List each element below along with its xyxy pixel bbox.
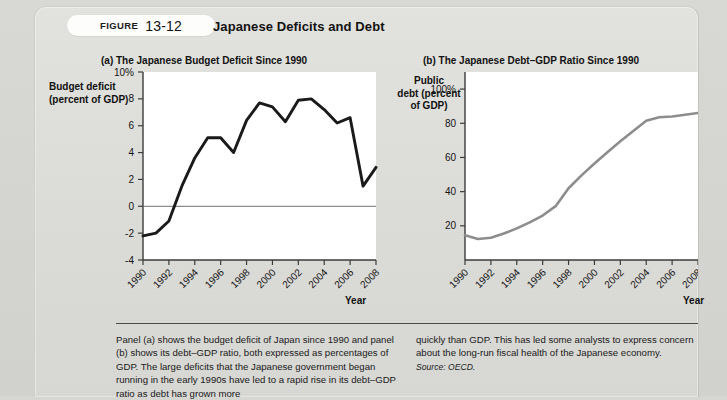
plot-area-panel-b [465, 72, 698, 260]
x-tick-label-panel-b-5: 2000 [576, 266, 600, 290]
x-tick-label-panel-b-9: 2008 [680, 266, 698, 290]
y-tick-label-panel-a-0: -4 [125, 255, 134, 266]
y-tick-label-panel-b-4: 100% [430, 84, 456, 95]
x-tick-label-panel-a-0: 1990 [125, 266, 149, 290]
chart-panel-b: 20406080100%1990199219941996199820002002… [430, 72, 698, 290]
y-tick-label-panel-a-5: 6 [128, 120, 134, 131]
caption-source: Source: OECD. [416, 361, 698, 374]
x-tick-label-panel-a-5: 2000 [254, 266, 278, 290]
caption-divider [116, 323, 698, 324]
x-tick-label-panel-a-7: 2004 [306, 266, 330, 290]
y-tick-label-panel-a-1: -2 [125, 228, 134, 239]
y-tick-label-panel-a-3: 2 [128, 174, 134, 185]
x-tick-label-panel-b-4: 1998 [550, 266, 574, 290]
plot-area-panel-a [143, 72, 376, 260]
x-tick-label-panel-b-3: 1996 [525, 266, 549, 290]
charts-canvas: -4-20246810%1990199219941996199820002002… [35, 7, 698, 327]
caption-right-column: quickly than GDP. This has led some anal… [416, 333, 698, 374]
y-tick-label-panel-a-2: 0 [128, 201, 134, 212]
x-tick-label-panel-a-3: 1996 [203, 266, 227, 290]
x-tick-label-panel-a-1: 1992 [151, 266, 175, 290]
x-tick-label-panel-b-8: 2006 [654, 266, 678, 290]
x-tick-label-panel-a-4: 1998 [228, 266, 252, 290]
x-tick-label-panel-a-9: 2008 [358, 266, 382, 290]
x-tick-label-panel-b-0: 1990 [447, 266, 471, 290]
caption-right-text: quickly than GDP. This has led some anal… [416, 334, 693, 358]
x-tick-label-panel-b-1: 1992 [473, 266, 497, 290]
y-tick-label-panel-a-4: 4 [128, 147, 134, 158]
figure-card: FIGURE 13-12 Japanese Deficits and Debt … [34, 6, 699, 397]
chart-panel-a: -4-20246810%1990199219941996199820002002… [114, 67, 382, 291]
x-tick-label-panel-b-2: 1994 [499, 266, 523, 290]
y-tick-label-panel-b-3: 80 [445, 118, 457, 129]
x-tick-label-panel-a-6: 2002 [280, 266, 304, 290]
caption-left-column: Panel (a) shows the budget deficit of Ja… [116, 333, 401, 400]
x-tick-label-panel-a-2: 1994 [177, 266, 201, 290]
x-tick-label-panel-b-6: 2002 [602, 266, 626, 290]
y-tick-label-panel-b-2: 60 [445, 152, 457, 163]
y-tick-label-panel-a-7: 10% [114, 67, 134, 78]
x-tick-label-panel-b-7: 2004 [628, 266, 652, 290]
y-tick-label-panel-b-1: 40 [445, 186, 457, 197]
y-tick-label-panel-a-6: 8 [128, 93, 134, 104]
y-tick-label-panel-b-0: 20 [445, 220, 457, 231]
x-tick-label-panel-a-8: 2006 [332, 266, 356, 290]
